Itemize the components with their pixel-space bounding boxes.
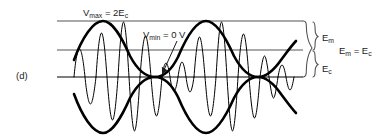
e-c-label: Ec bbox=[322, 64, 332, 75]
v-min-sub: min bbox=[149, 34, 160, 41]
v-min-rest: = 0 V bbox=[160, 29, 185, 40]
e-m-label: Em bbox=[322, 33, 334, 44]
am-modulation-figure: Vmax = 2Ec Vmin = 0 V Em Ec Em = Ec (d) bbox=[0, 0, 390, 136]
v-max-label: Vmax = 2Ec bbox=[83, 8, 128, 19]
e-c-bracket bbox=[313, 51, 318, 77]
v-max-sub: max bbox=[89, 12, 102, 19]
outer-bracket bbox=[303, 21, 312, 77]
e-m-sub: m bbox=[328, 37, 334, 44]
e-m-equals-e-c-label: Em = Ec bbox=[339, 46, 372, 57]
v-max-sub2: c bbox=[125, 12, 128, 19]
v-min-label: Vmin = 0 V bbox=[143, 30, 185, 41]
panel-label: (d) bbox=[16, 71, 28, 81]
measurement-brackets bbox=[303, 21, 318, 77]
emec-sub2: c bbox=[368, 50, 371, 57]
v-max-rest: = 2E bbox=[102, 7, 124, 18]
e-m-bracket bbox=[313, 22, 318, 50]
e-c-sub: c bbox=[328, 68, 331, 75]
emec-rest: = E bbox=[351, 45, 368, 56]
